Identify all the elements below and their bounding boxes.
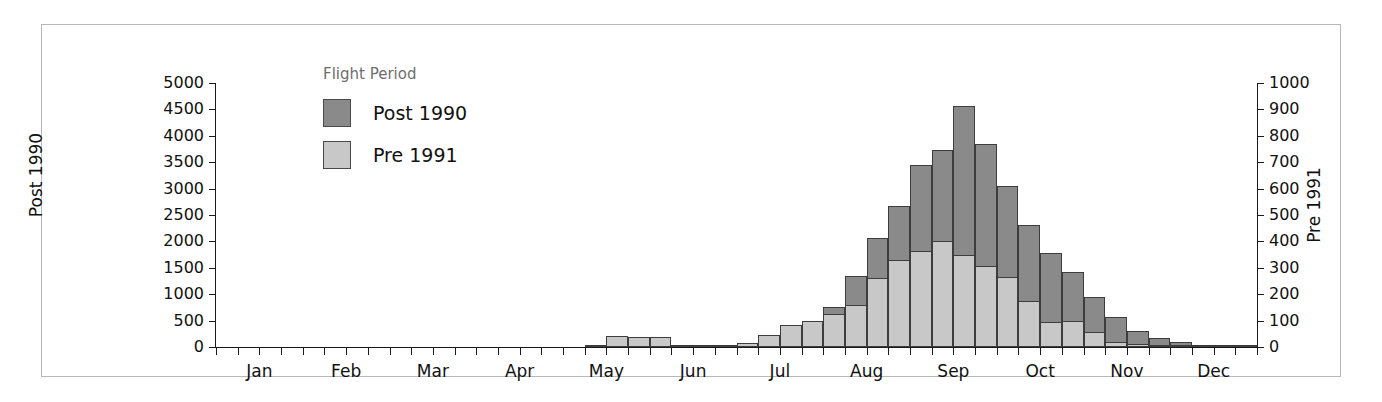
chart-frame: Post 1990 Pre 1991 050010001500200025003… bbox=[41, 24, 1341, 377]
x-axis-month-label: Jan bbox=[246, 361, 272, 381]
x-tick bbox=[498, 348, 499, 355]
y-tick-right bbox=[1258, 215, 1264, 216]
bar-pre bbox=[910, 251, 932, 347]
y-tick-label-left: 4000 bbox=[163, 128, 204, 144]
legend-swatch-post-1990 bbox=[323, 99, 351, 127]
x-axis-month-label: Feb bbox=[331, 361, 361, 381]
legend-item-pre-1991[interactable]: Pre 1991 bbox=[323, 141, 467, 169]
x-tick bbox=[953, 348, 954, 355]
y-tick-right bbox=[1258, 136, 1264, 137]
y-tick-right bbox=[1258, 321, 1264, 322]
x-tick bbox=[324, 348, 325, 355]
x-tick bbox=[932, 348, 933, 355]
bar-pre bbox=[823, 314, 845, 347]
bar-pre bbox=[1062, 321, 1084, 347]
x-axis-month-label: Jun bbox=[680, 361, 707, 381]
y-tick-label-right: 900 bbox=[1269, 101, 1300, 117]
y-tick-label-right: 500 bbox=[1269, 207, 1300, 223]
x-tick bbox=[758, 348, 759, 355]
y-tick-label-left: 5000 bbox=[163, 75, 204, 91]
x-tick bbox=[455, 348, 456, 355]
x-tick bbox=[845, 348, 846, 355]
legend: Flight Period Post 1990 Pre 1991 bbox=[323, 65, 467, 183]
x-tick bbox=[585, 348, 586, 355]
x-axis-month-label: Dec bbox=[1197, 361, 1230, 381]
bar-pre bbox=[1170, 345, 1192, 347]
x-tick bbox=[1062, 348, 1063, 355]
bar-pre bbox=[1235, 345, 1257, 347]
bar-pre bbox=[845, 305, 867, 347]
y-tick-left bbox=[209, 321, 215, 322]
y-tick-left bbox=[209, 347, 215, 348]
x-tick bbox=[1170, 348, 1171, 355]
x-tick bbox=[1040, 348, 1041, 355]
x-tick bbox=[1192, 348, 1193, 355]
bar-pre bbox=[1192, 345, 1214, 347]
y-axis-left-line bbox=[215, 83, 216, 347]
bar-pre bbox=[1084, 332, 1106, 347]
y-tick-left bbox=[209, 109, 215, 110]
y-tick-label-left: 2000 bbox=[163, 233, 204, 249]
x-axis-month-label: Apr bbox=[505, 361, 534, 381]
x-axis-month-label: Aug bbox=[850, 361, 883, 381]
x-tick bbox=[780, 348, 781, 355]
x-tick bbox=[823, 348, 824, 355]
y-axis-left-title: Post 1990 bbox=[26, 133, 46, 217]
x-axis-month-label: Jul bbox=[770, 361, 791, 381]
bar-pre bbox=[1040, 322, 1062, 347]
y-tick-label-right: 400 bbox=[1269, 233, 1300, 249]
x-tick bbox=[1105, 348, 1106, 355]
bar-pre bbox=[802, 321, 824, 347]
x-tick bbox=[628, 348, 629, 355]
y-tick-label-right: 1000 bbox=[1269, 75, 1310, 91]
y-tick-left bbox=[209, 83, 215, 84]
y-tick-label-right: 700 bbox=[1269, 154, 1300, 170]
x-tick bbox=[910, 348, 911, 355]
x-tick bbox=[476, 348, 477, 355]
bar-pre bbox=[1105, 342, 1127, 347]
x-tick bbox=[975, 348, 976, 355]
y-tick-label-right: 100 bbox=[1269, 313, 1300, 329]
y-tick-label-left: 500 bbox=[173, 313, 204, 329]
y-tick-right bbox=[1258, 268, 1264, 269]
x-tick bbox=[1084, 348, 1085, 355]
bar-pre bbox=[997, 277, 1019, 347]
x-axis-month-label: May bbox=[589, 361, 624, 381]
x-tick bbox=[411, 348, 412, 355]
x-tick bbox=[737, 348, 738, 355]
x-tick bbox=[997, 348, 998, 355]
bar-pre bbox=[671, 345, 693, 347]
y-tick-label-left: 1000 bbox=[163, 286, 204, 302]
x-tick bbox=[715, 348, 716, 355]
bar-pre bbox=[737, 343, 759, 347]
y-tick-left bbox=[209, 215, 215, 216]
x-tick bbox=[433, 348, 434, 355]
x-tick bbox=[238, 348, 239, 355]
y-tick-right bbox=[1258, 189, 1264, 190]
x-tick bbox=[303, 348, 304, 355]
y-tick-label-left: 0 bbox=[194, 339, 204, 355]
bar-pre bbox=[1214, 345, 1236, 347]
bar-pre bbox=[932, 241, 954, 347]
bar-pre bbox=[888, 260, 910, 347]
legend-item-post-1990[interactable]: Post 1990 bbox=[323, 99, 467, 127]
y-tick-left bbox=[209, 162, 215, 163]
y-tick-right bbox=[1258, 162, 1264, 163]
x-tick bbox=[368, 348, 369, 355]
x-tick bbox=[1149, 348, 1150, 355]
bar-pre bbox=[953, 255, 975, 347]
y-tick-left bbox=[209, 189, 215, 190]
x-axis-month-label: Nov bbox=[1110, 361, 1143, 381]
x-tick bbox=[259, 348, 260, 355]
y-tick-label-right: 300 bbox=[1269, 260, 1300, 276]
y-tick-label-left: 4500 bbox=[163, 101, 204, 117]
x-tick bbox=[1235, 348, 1236, 355]
y-tick-label-right: 0 bbox=[1269, 339, 1279, 355]
x-tick bbox=[346, 348, 347, 355]
bar-pre bbox=[606, 336, 628, 347]
bar-pre bbox=[780, 325, 802, 347]
y-tick-left bbox=[209, 136, 215, 137]
x-tick bbox=[888, 348, 889, 355]
y-tick-label-right: 800 bbox=[1269, 128, 1300, 144]
y-tick-left bbox=[209, 294, 215, 295]
